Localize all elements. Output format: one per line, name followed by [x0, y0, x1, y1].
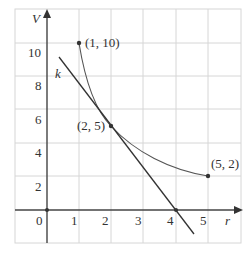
point-label-1-10: (1, 10)	[85, 35, 120, 50]
point-5-2	[206, 174, 210, 178]
y-axis-arrow-icon	[43, 9, 51, 18]
graph: (1, 10) (2, 5) (5, 2) k V r 10 8 6 4 2 0…	[0, 0, 251, 254]
y-tick: 2	[35, 179, 42, 194]
x-tick: 5	[200, 213, 207, 228]
origin-dot	[45, 208, 49, 212]
x-tick: 4	[167, 213, 174, 228]
y-tick: 6	[35, 112, 42, 127]
point-1-10	[77, 41, 81, 45]
x-tick: 3	[135, 213, 142, 228]
tangent-intercept-dot	[174, 208, 178, 212]
x-tick: 1	[71, 213, 78, 228]
x-axis-arrow-icon	[234, 206, 243, 214]
point-label-5-2: (5, 2)	[211, 156, 239, 171]
x-tick: 0	[36, 213, 43, 228]
y-tick: 4	[35, 145, 42, 160]
x-tick: 2	[102, 213, 109, 228]
point-label-2-5: (2, 5)	[77, 118, 105, 133]
grid	[15, 9, 241, 243]
y-axis-label: V	[32, 11, 42, 26]
point-2-5	[109, 124, 113, 128]
line-label-k: k	[55, 66, 61, 81]
y-tick: 10	[28, 45, 41, 60]
x-axis-label: r	[225, 213, 231, 228]
y-tick: 8	[35, 78, 42, 93]
